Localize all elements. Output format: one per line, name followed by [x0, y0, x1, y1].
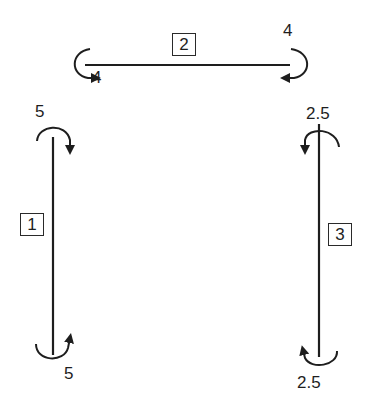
member-1-bottom-moment-value: 5	[64, 365, 73, 382]
member-2-right-moment-arrow-icon	[285, 49, 307, 78]
member-2-label: 2	[172, 33, 196, 56]
member-3-top-moment-arrow-icon	[305, 131, 339, 150]
member-2-left-moment-value: 4	[92, 69, 101, 86]
diagram-canvas	[0, 0, 373, 413]
member-3-label: 3	[328, 223, 352, 246]
member-3-bottom-moment-value: 2.5	[297, 374, 321, 391]
member-1-label: 1	[20, 213, 44, 236]
member-3-top-moment-value: 2.5	[306, 105, 330, 122]
member-1-top-moment-value: 5	[35, 103, 44, 120]
member-2-right-moment-value: 4	[283, 22, 292, 39]
